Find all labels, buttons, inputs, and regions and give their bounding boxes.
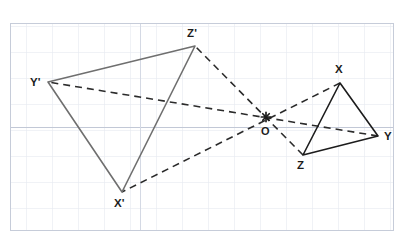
centre-label-O: O (261, 126, 270, 137)
vertex-label-Y: Y (384, 131, 392, 143)
vertex-label-X-prime: X' (114, 198, 125, 210)
vertex-label-X: X (335, 64, 343, 76)
geometry-figure: X Y Z X' Y' Z' O (0, 0, 404, 245)
centre-marker-layer (261, 112, 270, 121)
grid-layer (10, 23, 394, 231)
geometry-canvas (0, 0, 404, 245)
vertex-label-Z-prime: Z' (187, 28, 197, 40)
vertex-label-Y-prime: Y' (30, 77, 41, 89)
vertex-label-Z: Z (297, 160, 304, 172)
